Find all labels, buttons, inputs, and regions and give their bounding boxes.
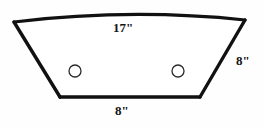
dimension-label-right: 8" [236,54,250,67]
dimension-label-bottom: 8" [115,104,129,117]
right-hole-circle [172,65,184,77]
left-hole-circle [69,65,81,77]
dimension-label-top: 17" [113,21,133,34]
geometry-diagram: 17" 8" 8" [0,0,264,127]
